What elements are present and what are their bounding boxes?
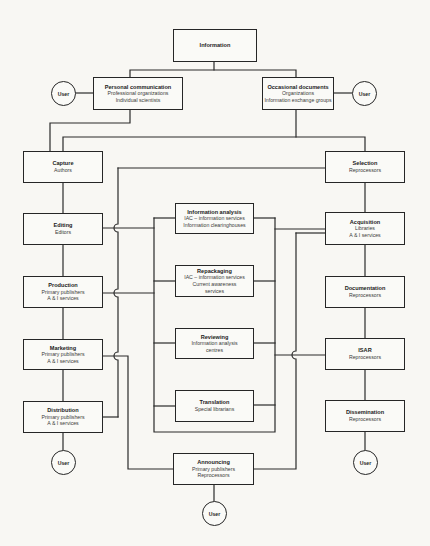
node-capture: Capture Authors [23,151,103,183]
node-production: Production Primary publishers A & I serv… [23,276,103,308]
node-information: Information [173,29,257,62]
node-title: ISAR [358,347,371,354]
node-title: Dissemination [346,409,384,416]
node-subtitle: A & I services [47,358,78,365]
node-subtitle: Primary publishers [192,466,235,473]
node-subtitle: Libraries [355,225,375,232]
node-subtitle: services [205,288,224,295]
node-marketing: Marketing Primary publishers A & I servi… [23,339,103,370]
node-occasional-documents: Occasional documents Organizations Infor… [262,77,334,110]
node-subtitle: Reprocessors [197,472,229,479]
user-circle-distribution: User [51,450,76,475]
node-title: Selection [353,160,378,167]
node-subtitle: Special librarians [195,406,235,413]
information-flow-diagram: Information Personal communication Profe… [0,0,430,546]
node-subtitle: Reprocessors [349,354,381,361]
node-announcing: Announcing Primary publishers Reprocesso… [173,453,254,485]
node-dissemination: Dissemination Reprocessors [325,400,405,432]
node-information-analysis: Information analysis IAC – information s… [175,203,254,234]
node-subtitle: Authors [54,167,72,174]
node-subtitle: Professional organizations [108,90,169,97]
node-subtitle: Reprocessors [349,292,381,299]
node-subtitle: Editors [55,229,71,236]
node-distribution: Distribution Primary publishers A & I se… [23,401,103,433]
node-title: Editing [54,222,73,229]
node-subtitle: IAC – information services [184,274,245,281]
node-title: Acquisition [350,219,380,226]
node-subtitle: Primary publishers [42,289,85,296]
node-subtitle: Individual scientists [116,97,161,104]
node-subtitle: Primary publishers [42,351,85,358]
node-personal-communication: Personal communication Professional orga… [93,77,183,110]
node-subtitle: Current awareness [193,281,237,288]
node-subtitle: IAC – information services [184,215,245,222]
node-acquisition: Acquisition Libraries A & I services [325,212,405,245]
node-title: Capture [52,160,73,167]
node-subtitle: A & I services [47,295,78,302]
user-circle-personal-communication: User [51,81,76,106]
node-title: Information [200,42,231,49]
node-title: Documentation [345,285,386,292]
node-subtitle: centres [206,347,223,354]
node-selection: Selection Reprocessors [325,151,405,183]
node-title: Information analysis [187,209,241,216]
node-subtitle: A & I services [349,232,380,239]
user-circle-occasional-documents: User [352,81,377,106]
node-subtitle: Information exchange groups [264,97,331,104]
node-title: Repackaging [197,268,232,275]
node-title: Translation [200,399,230,406]
node-title: Distribution [47,407,78,414]
node-subtitle: Reprocessors [349,167,381,174]
node-subtitle: Information analysis [191,340,237,347]
node-subtitle: Primary publishers [42,414,85,421]
node-title: Marketing [50,345,76,352]
node-documentation: Documentation Reprocessors [325,276,405,308]
node-repackaging: Repackaging IAC – information services C… [175,265,254,297]
node-title: Reviewing [201,334,229,341]
node-isar: ISAR Reprocessors [325,338,405,370]
user-circle-announcing: User [202,501,227,526]
node-title: Occasional documents [267,84,328,91]
node-subtitle: A & I services [47,420,78,427]
node-editing: Editing Editors [23,213,103,245]
node-reviewing: Reviewing Information analysis centres [175,328,254,359]
node-subtitle: Information clearinghouses [183,222,245,229]
node-title: Personal communication [105,84,172,91]
node-subtitle: Reprocessors [349,416,381,423]
node-subtitle: Organizations [282,90,314,97]
user-circle-dissemination: User [353,450,378,475]
node-title: Production [48,282,78,289]
node-translation: Translation Special librarians [175,390,254,422]
node-title: Announcing [197,459,230,466]
